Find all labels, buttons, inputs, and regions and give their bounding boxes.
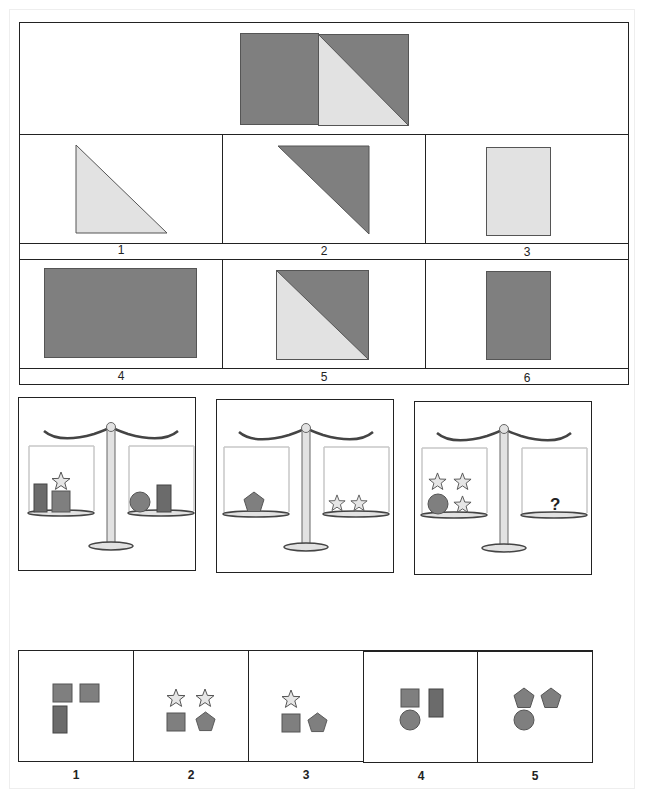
answer-option-3-label: 3 (248, 768, 364, 782)
option-1-label: 1 (19, 243, 223, 257)
answer-option-2[interactable] (133, 650, 249, 762)
option-4-shapes (398, 687, 458, 747)
option-2-label: 2 (222, 244, 426, 258)
balance-scale-2 (194, 397, 414, 567)
option-4[interactable] (19, 259, 223, 369)
scale-3: ? (414, 401, 592, 575)
option-6-label: 6 (425, 371, 629, 385)
balance-scale-1 (0, 396, 219, 566)
option-3-shapes (279, 688, 339, 738)
option-1-shapes (49, 681, 109, 741)
answer-option-4-label: 4 (363, 769, 479, 783)
answer-option-5-label: 5 (477, 769, 593, 783)
answer-option-1[interactable] (18, 650, 134, 762)
question-panel (19, 22, 629, 135)
answer-option-5[interactable] (477, 651, 593, 763)
answer-option-3[interactable] (248, 650, 364, 762)
answer-option-1-label: 1 (18, 768, 134, 782)
option-6[interactable] (425, 259, 629, 369)
option-2-shapes (164, 687, 224, 737)
scale-1 (18, 397, 196, 571)
balance-scale-3: ? (392, 398, 612, 568)
option-5-label: 5 (222, 370, 426, 384)
option-5[interactable] (222, 259, 426, 369)
option-1[interactable] (19, 134, 223, 244)
option-5-shapes (512, 687, 572, 747)
scale-2 (216, 399, 394, 573)
unknown-marker: ? (550, 495, 560, 514)
answer-option-4[interactable] (363, 651, 479, 763)
light-triangle-shape (75, 144, 170, 236)
dark-triangle-shape (277, 145, 372, 237)
question-figure (240, 33, 412, 129)
light-rectangle-shape (486, 147, 552, 237)
option-4-label: 4 (19, 369, 223, 383)
split-square-shape (276, 270, 370, 362)
dark-wide-rectangle-shape (44, 268, 198, 360)
option-3[interactable] (425, 134, 629, 244)
option-2[interactable] (222, 134, 426, 244)
answer-option-2-label: 2 (133, 768, 249, 782)
option-3-label: 3 (425, 245, 629, 259)
dark-rectangle-shape (486, 271, 552, 361)
